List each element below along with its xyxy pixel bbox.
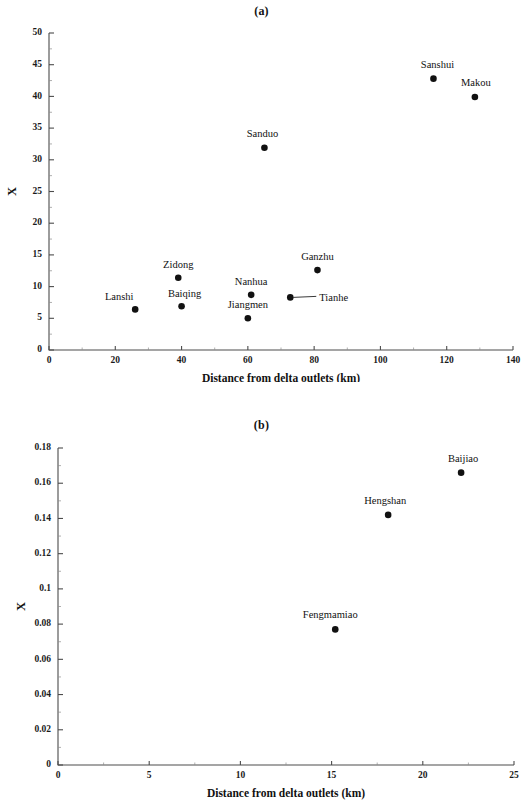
x-axis-title: Distance from delta outlets (km) [207, 787, 365, 800]
x-tick-label: 80 [309, 355, 319, 365]
x-tick-label: 0 [56, 770, 61, 780]
y-tick-label: 0.02 [34, 724, 51, 734]
x-tick-label: 100 [373, 355, 388, 365]
data-point[interactable] [458, 469, 465, 476]
x-tick-label: 140 [506, 355, 521, 365]
y-tick-label: 0.1 [39, 583, 51, 593]
x-axis-title: Distance from delta outlets (km) [202, 372, 360, 382]
x-tick-label: 40 [177, 355, 187, 365]
y-tick-label: 45 [33, 59, 43, 69]
scatter-plot-b: 00.020.040.060.080.10.120.140.160.180510… [0, 436, 523, 801]
y-tick-label: 20 [33, 217, 43, 227]
data-point[interactable] [261, 144, 268, 151]
data-point-label: Makou [461, 77, 491, 88]
y-tick-label: 0.06 [34, 654, 51, 664]
y-tick-label: 5 [37, 312, 42, 322]
data-point-label: Jiangmen [228, 299, 269, 310]
y-tick-label: 10 [33, 281, 43, 291]
data-point[interactable] [430, 75, 437, 82]
y-tick-label: 35 [33, 122, 43, 132]
data-point[interactable] [314, 267, 321, 274]
data-point-label: Tianhe [319, 292, 348, 303]
data-point-label: Sanshui [421, 59, 454, 70]
x-tick-label: 20 [418, 770, 428, 780]
data-point[interactable] [248, 292, 255, 299]
x-tick-label: 25 [509, 770, 519, 780]
x-tick-label: 15 [327, 770, 337, 780]
scatter-plot-a: 05101520253035404550020406080100120140Di… [0, 22, 523, 382]
data-point-label: Baijiao [448, 453, 478, 464]
data-point-label: Ganzhu [301, 251, 334, 262]
data-point[interactable] [175, 274, 182, 281]
data-point-label: Sanduo [247, 128, 279, 139]
y-axis-title: X [5, 187, 19, 196]
data-point[interactable] [472, 94, 479, 101]
x-tick-label: 0 [47, 355, 52, 365]
data-point-label: Hengshan [364, 495, 407, 506]
y-tick-label: 50 [33, 27, 43, 37]
y-tick-label: 0 [46, 759, 51, 769]
y-tick-label: 30 [33, 154, 43, 164]
x-tick-label: 120 [440, 355, 455, 365]
data-point-label: Nanhua [235, 276, 268, 287]
y-tick-label: 25 [33, 186, 43, 196]
data-point[interactable] [178, 303, 185, 310]
y-axis-title: X [14, 602, 28, 611]
y-tick-label: 0.18 [34, 442, 51, 452]
y-tick-label: 0.12 [34, 548, 51, 558]
x-tick-label: 60 [243, 355, 253, 365]
data-point[interactable] [287, 294, 294, 301]
data-point-label: Fengmamiao [303, 609, 358, 620]
panel-a-title: (a) [0, 4, 523, 19]
axis-lines [49, 33, 513, 350]
data-point-label: Zidong [163, 259, 194, 270]
y-tick-label: 0.04 [34, 689, 51, 699]
plot-area-a: 05101520253035404550020406080100120140Di… [0, 22, 523, 382]
y-tick-label: 0 [37, 344, 42, 354]
data-point-label: Lanshi [105, 291, 134, 302]
data-point[interactable] [245, 315, 252, 322]
x-tick-label: 20 [111, 355, 121, 365]
y-tick-label: 40 [33, 91, 43, 101]
data-point-label: Baiqing [168, 288, 202, 299]
x-tick-label: 5 [147, 770, 152, 780]
y-tick-label: 0.08 [34, 618, 51, 628]
point-leader-line [293, 296, 316, 297]
y-tick-label: 15 [33, 249, 43, 259]
data-point[interactable] [385, 512, 392, 519]
plot-area-b: 00.020.040.060.080.10.120.140.160.180510… [0, 436, 523, 801]
data-point[interactable] [332, 626, 339, 633]
figure-panel-a: (a) 051015202530354045500204060801001201… [0, 0, 523, 400]
data-point[interactable] [132, 306, 139, 313]
panel-b-title: (b) [0, 418, 523, 433]
axis-lines [58, 448, 514, 765]
y-tick-label: 0.16 [34, 477, 51, 487]
figure-panel-b: (b) 00.020.040.060.080.10.120.140.160.18… [0, 400, 523, 805]
y-tick-label: 0.14 [34, 513, 51, 523]
x-tick-label: 10 [236, 770, 246, 780]
